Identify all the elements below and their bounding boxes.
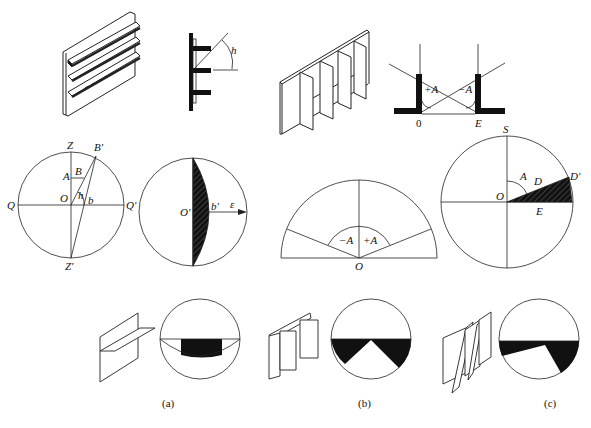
- panel-b-illustration: [269, 313, 318, 379]
- label-o-prime: O': [180, 206, 191, 218]
- label-d-prime: D': [569, 170, 581, 182]
- panel-c-mask: [499, 299, 579, 379]
- label-e: E: [474, 117, 482, 129]
- label-d: D: [533, 175, 542, 187]
- panel-b-mask: [331, 299, 411, 379]
- horizontal-louver-sun-chart-labels: Z B' A B O h b Q Q' Z': [7, 139, 137, 272]
- oblique-fin-sun-chart: S O A D D' E: [441, 123, 581, 268]
- panel-a-illustration: [100, 313, 155, 382]
- horizontal-louver-sun-chart: [18, 152, 124, 258]
- label-a-3: A: [519, 170, 527, 182]
- label-o-3: O: [496, 190, 504, 202]
- label-q: Q: [7, 199, 15, 211]
- label-s: S: [503, 123, 509, 135]
- label-o-2: O: [355, 260, 363, 272]
- label-o: O: [60, 192, 68, 204]
- label-b: B: [75, 165, 82, 177]
- caption-b: (b): [358, 397, 371, 410]
- label-epsilon: ε: [230, 198, 235, 210]
- label-0: 0: [416, 117, 422, 129]
- label-e-3: E: [535, 205, 543, 217]
- panel-c-illustration: [443, 312, 491, 393]
- vertical-fin-section: +A −A 0 E: [389, 44, 505, 129]
- label-a: A: [62, 170, 70, 182]
- label-minus-a: −A: [458, 83, 472, 95]
- vertical-fin-semicircle-chart: [281, 180, 437, 258]
- label-small-b: b: [88, 194, 94, 206]
- label-b-prime-small: b': [211, 200, 220, 212]
- label-z: Z: [67, 139, 74, 151]
- label-minus-a-2: −A: [339, 234, 353, 246]
- horizontal-louver-illustration: [63, 12, 140, 116]
- label-h: h: [231, 44, 237, 56]
- label-plus-a-2: +A: [363, 234, 377, 246]
- label-z-prime: Z': [65, 260, 74, 272]
- horizontal-louver-section: h: [189, 33, 238, 111]
- label-q-prime: Q': [126, 199, 137, 211]
- caption-a: (a): [162, 397, 175, 410]
- caption-c: (c): [544, 397, 557, 410]
- panel-a-mask: [160, 299, 240, 379]
- horizontal-louver-mask: O' b' ε: [139, 158, 247, 266]
- label-h2: h: [78, 189, 84, 201]
- vertical-fin-illustration: [280, 30, 369, 134]
- label-b-prime: B': [94, 141, 104, 153]
- shading-diagram: h +A −A 0 E: [0, 0, 591, 428]
- label-plus-a: +A: [424, 83, 438, 95]
